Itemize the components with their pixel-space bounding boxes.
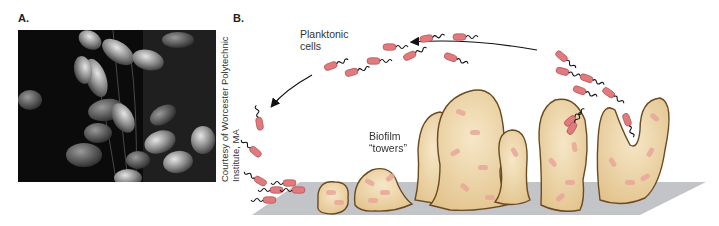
planktonic-cells-caption: Planktonic cells xyxy=(300,28,348,52)
biofilm-diagram xyxy=(0,0,719,226)
microcolony-small xyxy=(318,182,348,214)
biofilm-towers-caption: Biofilm “towers” xyxy=(369,130,407,154)
arrow-attach xyxy=(272,75,312,106)
planktonic-caption-line-2: cells xyxy=(300,40,348,52)
biofilm-caption-line-2: “towers” xyxy=(369,142,407,154)
biofilm-caption-line-1: Biofilm xyxy=(369,130,407,142)
arrow-detach xyxy=(412,41,537,50)
planktonic-caption-line-1: Planktonic xyxy=(300,28,348,40)
